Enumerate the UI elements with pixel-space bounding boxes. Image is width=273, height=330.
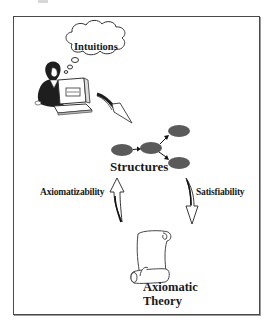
axiomatizability-label: Axiomatizability [40,188,104,198]
structures-label: Structures [110,160,168,173]
person-at-computer-icon [35,62,92,116]
axiomatic-theory-line2: Theory [143,294,198,308]
structure-ellipse [168,157,190,169]
scroll-icon [131,231,171,284]
axiomatic-theory-line1: Axiomatic [143,280,198,294]
axiomatic-theory-label: Axiomatic Theory [143,280,198,308]
structure-ellipse [140,142,162,154]
intuitions-label: Intuitions [74,42,118,53]
satisfiability-arrow-icon [186,178,198,224]
structure-ellipse [168,125,190,137]
axiomatizability-arrow-icon [110,178,124,222]
satisfiability-label: Satisfiability [196,188,244,198]
structure-ellipse [111,144,133,156]
curved-arrow-icon [97,94,132,123]
